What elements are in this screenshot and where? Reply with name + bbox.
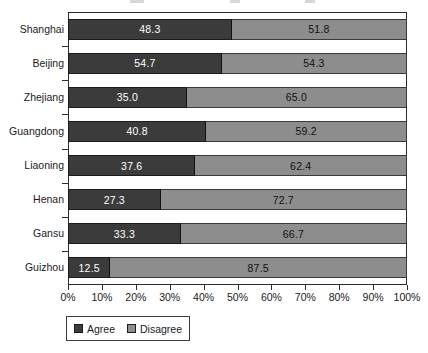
bar-value-label-disagree: 51.8 <box>308 23 329 35</box>
bar-segment-agree: 54.7 <box>68 53 222 74</box>
bar-value-label-agree: 37.6 <box>121 160 142 172</box>
category-label-zhejiang: Zhejiang <box>0 87 64 108</box>
stacked-bar-chart: ShanghaiBeijingZhejiangGuangdongLiaoning… <box>0 0 428 353</box>
category-axis-tick <box>62 114 69 115</box>
bar-value-label-disagree: 65.0 <box>286 91 307 103</box>
value-axis-tick-label: 0% <box>60 291 75 303</box>
scan-artifact <box>230 0 240 3</box>
bar-row: 48.351.8 <box>68 19 407 40</box>
bar-value-label-agree: 48.3 <box>139 23 160 35</box>
bar-segment-agree: 40.8 <box>68 121 206 142</box>
bar-value-label-disagree: 72.7 <box>273 194 294 206</box>
category-axis-tick <box>62 149 69 150</box>
bar-value-label-agree: 12.5 <box>79 262 100 274</box>
value-axis-tick <box>271 285 272 290</box>
category-label-beijing: Beijing <box>0 53 64 74</box>
category-label-liaoning: Liaoning <box>0 155 64 176</box>
category-axis-tick <box>62 46 69 47</box>
value-axis-tick-label: 50% <box>227 291 248 303</box>
bar-row: 12.587.5 <box>68 257 407 278</box>
value-axis: 0%10%20%30%40%50%60%70%80%90%100% <box>68 285 407 309</box>
bar-row: 40.859.2 <box>68 121 407 142</box>
value-axis-tick <box>136 285 137 290</box>
bar-value-label-disagree: 66.7 <box>283 228 304 240</box>
bar-value-label-agree: 40.8 <box>127 125 148 137</box>
category-label-guangdong: Guangdong <box>0 121 64 142</box>
bar-row: 35.065.0 <box>68 87 407 108</box>
bars-layer: 48.351.854.754.335.065.040.859.237.662.4… <box>68 12 407 285</box>
value-axis-tick-label: 60% <box>261 291 282 303</box>
scan-artifact <box>130 0 144 3</box>
bar-segment-disagree: 51.8 <box>232 19 407 40</box>
value-axis-tick <box>170 285 171 290</box>
value-axis-tick <box>305 285 306 290</box>
bar-segment-disagree: 72.7 <box>161 189 407 210</box>
bar-segment-disagree: 59.2 <box>206 121 407 142</box>
bar-value-label-disagree: 54.3 <box>303 57 324 69</box>
bar-value-label-agree: 33.3 <box>114 228 135 240</box>
category-label-shanghai: Shanghai <box>0 19 64 40</box>
category-label-henan: Henan <box>0 189 64 210</box>
bar-segment-agree: 33.3 <box>68 223 181 244</box>
legend-item-agree: Agree <box>74 323 115 335</box>
value-axis-tick-label: 20% <box>125 291 146 303</box>
value-axis-tick-label: 70% <box>295 291 316 303</box>
value-axis-tick-label: 40% <box>193 291 214 303</box>
value-axis-tick-label: 80% <box>329 291 350 303</box>
bar-value-label-disagree: 59.2 <box>296 125 317 137</box>
legend-swatch-agree-icon <box>74 324 83 333</box>
legend-item-disagree: Disagree <box>127 323 182 335</box>
value-axis-tick <box>68 285 69 290</box>
value-axis-tick <box>102 285 103 290</box>
bar-value-label-agree: 27.3 <box>104 194 125 206</box>
bar-row: 27.372.7 <box>68 189 407 210</box>
bar-segment-disagree: 66.7 <box>181 223 407 244</box>
legend-swatch-disagree-icon <box>127 324 136 333</box>
category-axis-tick <box>62 80 69 81</box>
bar-row: 54.754.3 <box>68 53 407 74</box>
bar-value-label-agree: 35.0 <box>117 91 138 103</box>
bar-segment-agree: 35.0 <box>68 87 187 108</box>
bar-segment-disagree: 62.4 <box>195 155 407 176</box>
category-axis-tick <box>62 251 69 252</box>
bar-segment-agree: 37.6 <box>68 155 195 176</box>
bar-value-label-disagree: 62.4 <box>290 160 311 172</box>
bar-segment-agree: 27.3 <box>68 189 161 210</box>
bar-row: 33.366.7 <box>68 223 407 244</box>
category-axis-tick <box>62 183 69 184</box>
legend-label-disagree: Disagree <box>140 323 182 335</box>
category-axis-tick <box>62 217 69 218</box>
value-axis-tick-label: 90% <box>363 291 384 303</box>
value-axis-tick-label: 10% <box>91 291 112 303</box>
bar-value-label-agree: 54.7 <box>134 57 155 69</box>
value-axis-tick-label: 100% <box>394 291 421 303</box>
category-label-gansu: Gansu <box>0 223 64 244</box>
scan-artifact <box>305 0 315 3</box>
category-axis-labels: ShanghaiBeijingZhejiangGuangdongLiaoning… <box>0 12 64 285</box>
value-axis-tick <box>238 285 239 290</box>
value-axis-tick <box>373 285 374 290</box>
category-label-guizhou: Guizhou <box>0 257 64 278</box>
bar-value-label-disagree: 87.5 <box>248 262 269 274</box>
chart-legend: Agree Disagree <box>66 316 190 341</box>
legend-label-agree: Agree <box>87 323 115 335</box>
value-axis-tick <box>204 285 205 290</box>
value-axis-tick-label: 30% <box>159 291 180 303</box>
bar-segment-agree: 48.3 <box>68 19 232 40</box>
bar-segment-agree: 12.5 <box>68 257 110 278</box>
bar-segment-disagree: 65.0 <box>187 87 407 108</box>
value-axis-tick <box>407 285 408 290</box>
bar-segment-disagree: 87.5 <box>110 257 407 278</box>
value-axis-tick <box>339 285 340 290</box>
bar-row: 37.662.4 <box>68 155 407 176</box>
bar-segment-disagree: 54.3 <box>222 53 407 74</box>
